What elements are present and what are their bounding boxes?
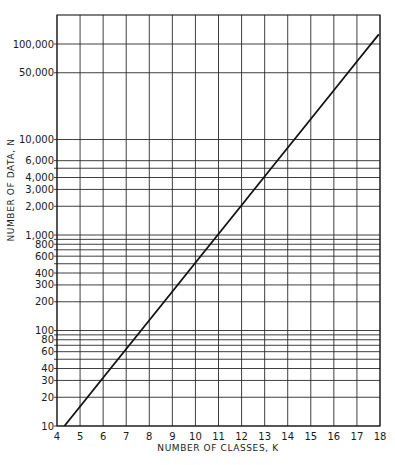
x-tick-label: 8 xyxy=(146,431,152,442)
x-tick-label: 9 xyxy=(169,431,175,442)
y-tick-label: 100,000 xyxy=(13,39,54,50)
x-tick-label: 16 xyxy=(327,431,340,442)
x-tick-label: 10 xyxy=(189,431,202,442)
x-tick-label: 17 xyxy=(351,431,364,442)
vertical-gridlines xyxy=(57,15,380,426)
y-tick-label: 600 xyxy=(35,251,54,262)
x-tick-label: 12 xyxy=(235,431,248,442)
y-tick-label: 3,000 xyxy=(25,184,54,195)
x-tick-label: 15 xyxy=(304,431,317,442)
y-tick-label: 40 xyxy=(41,363,54,374)
chart: 456789101112131415161718 102030406080100… xyxy=(0,0,395,465)
x-axis-tick-labels: 456789101112131415161718 xyxy=(54,431,387,442)
x-tick-label: 11 xyxy=(212,431,225,442)
y-tick-label: 60 xyxy=(41,346,54,357)
x-tick-label: 7 xyxy=(123,431,129,442)
x-tick-label: 5 xyxy=(77,431,83,442)
y-tick-label: 200 xyxy=(35,296,54,307)
y-tick-label: 400 xyxy=(35,268,54,279)
data-line xyxy=(64,34,378,426)
x-tick-label: 4 xyxy=(54,431,60,442)
y-tick-label: 1,000 xyxy=(25,230,54,241)
y-tick-label: 30 xyxy=(41,375,54,386)
y-tick-label: 10,000 xyxy=(19,134,54,145)
x-tick-label: 13 xyxy=(258,431,271,442)
x-axis-label: NUMBER OF CLASSES, K xyxy=(157,443,279,453)
x-tick-label: 18 xyxy=(374,431,387,442)
y-tick-label: 20 xyxy=(41,392,54,403)
y-tick-label: 300 xyxy=(35,279,54,290)
y-tick-label: 50,000 xyxy=(19,67,54,78)
y-tick-label: 6,000 xyxy=(25,155,54,166)
y-tick-label: 10 xyxy=(41,421,54,432)
x-tick-label: 14 xyxy=(281,431,294,442)
y-tick-label: 100 xyxy=(35,325,54,336)
y-tick-label: 4,000 xyxy=(25,172,54,183)
x-tick-label: 6 xyxy=(100,431,106,442)
y-axis-label: NUMBER OF DATA, N xyxy=(6,138,16,241)
y-axis-tick-labels: 1020304060801002003004006008001,0002,000… xyxy=(13,39,54,432)
y-tick-label: 2,000 xyxy=(25,201,54,212)
